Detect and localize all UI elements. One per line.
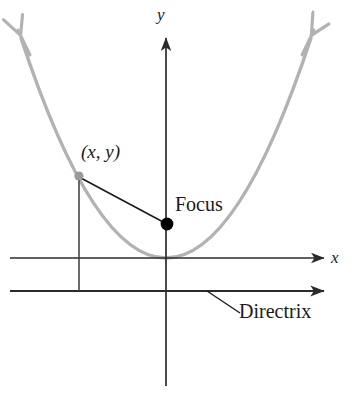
y-axis-label: y [157,6,165,23]
directrix-label: Directrix [239,301,311,321]
point-coordinate-label: (x, y) [81,142,120,161]
focus-label: Focus [175,194,223,214]
x-axis-label: x [331,249,339,266]
focus-dot [161,218,174,231]
directrix-leader-line [207,291,240,313]
parabola-figure: y x (x, y) Focus Directrix [0,0,352,400]
point-on-parabola-dot [74,171,83,180]
